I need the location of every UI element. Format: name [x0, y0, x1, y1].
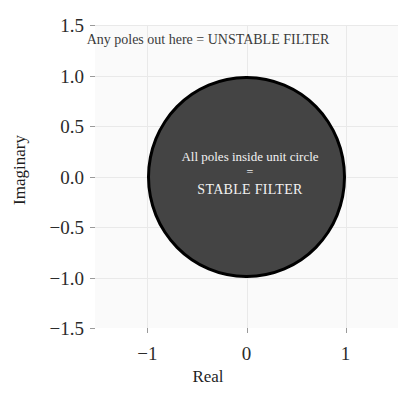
- x-tick-mark: [247, 328, 248, 333]
- x-tick-label: 1: [306, 344, 386, 363]
- x-tick-mark: [346, 328, 347, 333]
- y-tick-mark: [90, 278, 95, 279]
- x-tick-label: −1: [107, 344, 187, 363]
- stable-annotation-line-3: STABLE FILTER: [150, 181, 350, 199]
- pole-zero-stability-figure: 1.51.00.50.0−0.5−1.0−1.5 −101 Real Imagi…: [0, 0, 416, 396]
- stable-region-annotation: All poles inside unit circle = STABLE FI…: [150, 148, 350, 199]
- x-axis-title: Real: [0, 367, 416, 387]
- gridline-horizontal: [95, 25, 398, 26]
- x-tick-mark: [147, 328, 148, 333]
- stable-annotation-line-1: All poles inside unit circle: [150, 148, 350, 165]
- y-tick-label: −1.5: [0, 319, 84, 338]
- unstable-region-annotation: Any poles out here = UNSTABLE FILTER: [0, 32, 416, 48]
- y-tick-mark: [90, 177, 95, 178]
- y-axis-title: Imaginary: [10, 110, 30, 230]
- gridline-horizontal: [95, 278, 398, 279]
- y-tick-mark: [90, 76, 95, 77]
- y-tick-mark: [90, 25, 95, 26]
- y-tick-mark: [90, 227, 95, 228]
- y-tick-mark: [90, 328, 95, 329]
- stable-annotation-line-2: =: [150, 165, 350, 181]
- y-tick-label: 1.0: [0, 67, 84, 86]
- y-tick-label: −1.0: [0, 269, 84, 288]
- x-tick-label: 0: [207, 344, 287, 363]
- y-tick-mark: [90, 126, 95, 127]
